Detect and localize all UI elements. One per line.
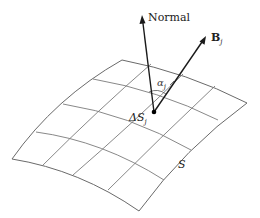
normal-arrowhead-icon — [140, 15, 146, 24]
surface-left-edge — [12, 60, 122, 159]
normal-label: Normal — [148, 11, 190, 24]
grid-row-line — [36, 132, 164, 180]
surface-bottom-edge — [12, 159, 139, 211]
surface-flux-diagram: Normal Bj αj ΔSj S — [0, 0, 260, 218]
angle-label: αj — [157, 77, 167, 91]
normal-vector — [140, 15, 155, 112]
surface-element-label: ΔSj — [128, 111, 147, 126]
surface-element-point — [152, 110, 157, 115]
surface-right-edge — [139, 103, 247, 211]
b-vector-label: Bj — [211, 31, 223, 46]
surface-grid — [12, 60, 247, 211]
b-vector — [154, 36, 206, 112]
surface-label: S — [178, 158, 186, 171]
